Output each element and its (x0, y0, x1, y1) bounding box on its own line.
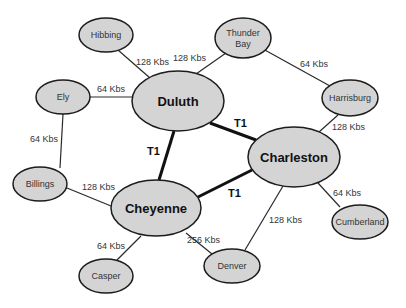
node-ellipse (215, 18, 271, 58)
link-label-ely-billings: 64 Kbs (30, 134, 59, 144)
node-label-line1: Thunder (226, 28, 260, 38)
link-label-thunder_bay-duluth: 128 Kbs (173, 53, 207, 63)
link-label-duluth-charleston: T1 (234, 117, 247, 129)
link-label-hibbing-duluth: 128 Kbs (136, 57, 170, 67)
link-label-cheyenne-denver: 256 Kbs (187, 235, 221, 245)
link-duluth-charleston (210, 123, 256, 140)
network-diagram: 128 Kbs128 Kbs64 Kbs64 Kbs128 Kbs64 Kbs1… (0, 0, 406, 308)
link-ely-billings (60, 114, 63, 168)
node-label: Harrisburg (329, 93, 371, 103)
node-thunder-bay: ThunderBay (215, 18, 271, 58)
link-label-charleston-denver: 128 Kbs (269, 215, 303, 225)
node-label: Ely (57, 92, 70, 102)
link-label-billings-cheyenne: 128 Kbs (82, 182, 116, 192)
link-label-thunder_bay-harrisburg: 64 Kbs (300, 59, 329, 69)
link-label-duluth-cheyenne: T1 (147, 145, 160, 157)
link-label-cheyenne-charleston: T1 (228, 187, 241, 199)
node-charleston: Charleston (248, 127, 340, 187)
node-cheyenne: Cheyenne (111, 180, 201, 236)
node-label: Cumberland (335, 217, 384, 227)
link-label-charleston-cumberland: 64 Kbs (333, 188, 362, 198)
node-label-line2: Bay (235, 39, 251, 49)
node-cumberland: Cumberland (332, 205, 388, 239)
node-label: Cheyenne (125, 201, 187, 216)
node-label: Denver (217, 261, 246, 271)
link-cheyenne-charleston (198, 170, 252, 197)
node-ely: Ely (36, 80, 90, 114)
node-denver: Denver (204, 249, 260, 283)
node-label: Hibbing (91, 30, 122, 40)
node-billings: Billings (13, 167, 67, 201)
node-harrisburg: Harrisburg (322, 80, 378, 116)
link-label-cheyenne-casper: 64 Kbs (97, 241, 126, 251)
node-label: Casper (91, 271, 120, 281)
node-label: Charleston (260, 150, 328, 165)
link-duluth-cheyenne (159, 131, 174, 180)
node-hibbing: Hibbing (79, 18, 133, 52)
node-casper: Casper (79, 259, 133, 293)
link-label-ely-duluth: 64 Kbs (97, 84, 126, 94)
link-label-harrisburg-charleston: 128 Kbs (332, 122, 366, 132)
node-label: Duluth (157, 94, 198, 109)
node-duluth: Duluth (132, 71, 224, 131)
node-label: Billings (26, 179, 55, 189)
